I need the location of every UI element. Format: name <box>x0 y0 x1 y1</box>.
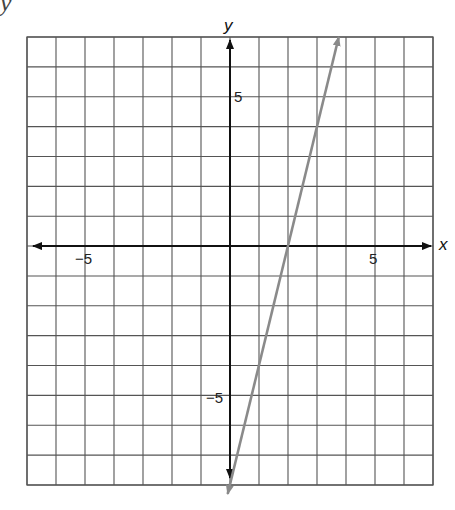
y-tick-neg5: −5 <box>206 389 223 406</box>
y-tick-5: 5 <box>234 88 242 105</box>
x-tick-neg5: −5 <box>75 250 92 267</box>
x-tick-5: 5 <box>369 250 377 267</box>
y-axis-label: y <box>223 16 234 35</box>
tick-labels: −5 5 5 −5 x y <box>75 16 448 406</box>
coordinate-plane: −5 5 5 −5 x y <box>0 0 455 510</box>
x-axis-label: x <box>438 235 448 254</box>
